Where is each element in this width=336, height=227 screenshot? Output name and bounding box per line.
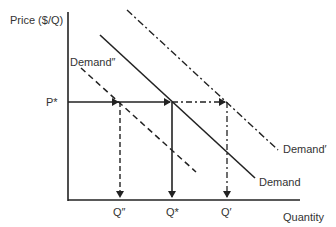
price-star-label: P* <box>46 97 58 108</box>
demand-curve <box>100 35 255 178</box>
q-prime-label: Q′ <box>221 207 232 218</box>
demand-double-prime-label: Demand″ <box>70 57 115 68</box>
demand-double-prime-curve <box>81 68 196 172</box>
q-star-label: Q* <box>166 207 179 218</box>
q-double-prime-label: Q″ <box>113 207 125 218</box>
demand-diagram <box>0 0 336 227</box>
y-axis-label: Price ($/Q) <box>10 15 63 26</box>
demand-prime-label: Demand′ <box>283 144 327 155</box>
x-axis-label: Quantity <box>283 212 324 223</box>
demand-label: Demand <box>259 177 301 188</box>
